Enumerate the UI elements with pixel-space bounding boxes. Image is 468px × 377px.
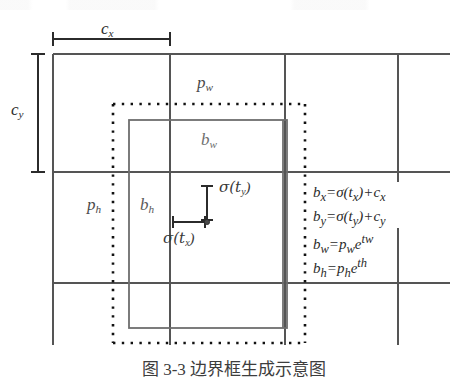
equation-bw: bw=pwetw [313, 233, 373, 256]
label-cx: cx [101, 20, 114, 39]
label-sigma-tx: σ(tx) [163, 231, 195, 248]
box-center-point [204, 219, 209, 224]
label-sigma-ty: σ(ty) [219, 180, 251, 197]
equation-bh: bh=pheth [313, 257, 367, 280]
figure-caption: 图 3-3 边界框生成示意图 [0, 355, 468, 377]
equation-by: by=σ(ty)+cy [313, 209, 386, 228]
sigma-ty-measure [201, 186, 213, 220]
sigma-tx-measure [173, 216, 205, 228]
cy-measure [31, 54, 45, 172]
label-ph: ph [87, 196, 101, 215]
label-pw: pw [197, 74, 213, 93]
label-bw: bw [201, 131, 217, 150]
grid-lines [53, 54, 450, 345]
figure-container: cx cy pw bw ph bh σ(ty) σ(tx) bx=σ(tx)+c… [0, 0, 468, 377]
label-bh: bh [140, 196, 154, 215]
equation-bx: bx=σ(tx)+cx [313, 185, 386, 204]
label-cy: cy [11, 101, 24, 120]
